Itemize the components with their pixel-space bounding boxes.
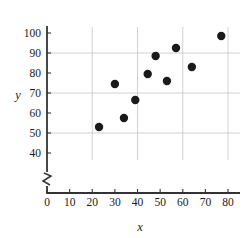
x-tick-label: 70	[200, 196, 212, 208]
y-tick-label: 100	[24, 27, 42, 39]
data-point	[120, 114, 128, 122]
data-point	[144, 70, 152, 78]
y-tick-label: 70	[30, 87, 42, 99]
x-tick-label: 20	[87, 196, 99, 208]
y-tick-label: 40	[30, 147, 42, 159]
y-axis-title: y	[13, 88, 21, 102]
y-tick-label: 60	[30, 107, 42, 119]
data-point	[172, 44, 180, 52]
data-point	[217, 32, 225, 40]
y-tick-label: 50	[30, 127, 42, 139]
y-tick-label: 90	[30, 47, 42, 59]
x-tick-label: 60	[177, 196, 189, 208]
x-tick-label: 0	[44, 196, 50, 208]
x-axis-title: x	[136, 220, 143, 234]
x-tick-label: 40	[132, 196, 144, 208]
x-tick-label: 30	[109, 196, 121, 208]
x-tick-label: 10	[64, 196, 76, 208]
x-tick-label: 50	[154, 196, 166, 208]
data-point	[163, 77, 171, 85]
scatter-plot-figure: 01020304050607080 405060708090100 x y	[0, 0, 249, 238]
data-point	[95, 123, 103, 131]
scatter-plot-canvas: 01020304050607080 405060708090100 x y	[0, 0, 249, 238]
y-tick-label: 80	[30, 67, 42, 79]
data-point	[111, 80, 119, 88]
data-point	[131, 96, 139, 104]
data-point	[151, 52, 159, 60]
x-axis-tick-labels: 01020304050607080	[44, 196, 234, 208]
data-point	[188, 63, 196, 71]
x-tick-label: 80	[222, 196, 234, 208]
